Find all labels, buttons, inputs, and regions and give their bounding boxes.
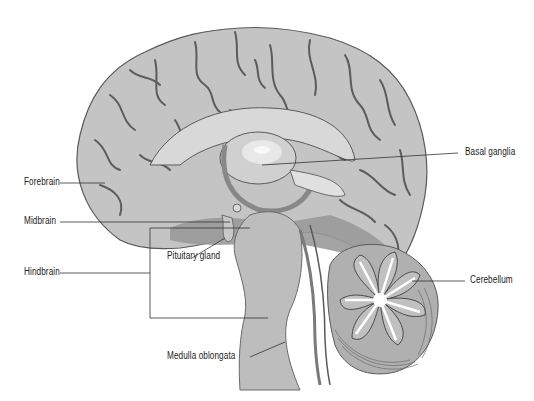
cerebellum [328,244,439,374]
label-basal-ganglia: Basal ganglia [465,146,515,157]
brain-illustration [0,0,534,401]
label-forebrain: Forebrain [24,176,60,187]
label-cerebellum: Cerebellum [470,274,513,285]
label-medulla-oblongata: Medulla oblongata [167,350,235,361]
label-midbrain: Midbrain [24,215,56,226]
brain-diagram: Forebrain Midbrain Hindbrain Pituitary g… [0,0,534,401]
label-pituitary-gland: Pituitary gland [167,250,220,261]
label-hindbrain: Hindbrain [24,266,60,277]
